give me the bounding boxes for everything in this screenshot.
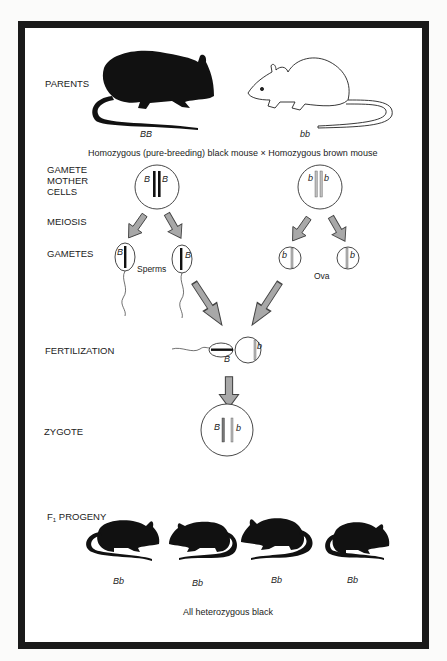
meiosis-arrow-icon xyxy=(324,213,352,245)
stage-label-parents: PARENTS xyxy=(45,78,89,89)
brown-parent-genotype: bb xyxy=(300,129,310,139)
meiosis-arrow-icon xyxy=(286,213,315,245)
black-parent-genotype: BB xyxy=(140,129,152,139)
black-mouse-icon xyxy=(325,522,389,560)
allele-label: b xyxy=(308,173,313,183)
sperm-cell: B xyxy=(172,245,192,318)
stage-label-meiosis: MEIOSIS xyxy=(47,216,87,227)
sperm-cell: B xyxy=(115,243,135,316)
meiosis-arrow-icon xyxy=(122,210,151,242)
male-mother-cell: B B xyxy=(135,165,179,209)
stage-label-gametes: GAMETES xyxy=(47,248,93,259)
ovum-cell: b xyxy=(279,247,301,269)
cross-caption: Homozygous (pure-breeding) black mouse ×… xyxy=(88,148,377,158)
allele-label: B xyxy=(185,250,191,260)
female-mother-cell: b b xyxy=(298,165,342,209)
stage-label-zygote: ZYGOTE xyxy=(44,426,83,437)
allele-label: B xyxy=(214,422,220,432)
black-mouse-icon xyxy=(169,522,237,560)
black-mouse-icon xyxy=(86,520,159,561)
stage-label-gamete-line3: CELLS xyxy=(47,186,77,197)
allele-label: b xyxy=(282,250,287,260)
sperms-label: Sperms xyxy=(137,264,166,274)
progeny-mice xyxy=(86,518,389,561)
allele-label: b xyxy=(324,173,329,183)
progeny-genotype: Bb xyxy=(347,575,358,585)
zygote-cell: B b xyxy=(201,404,253,456)
allele-label: b xyxy=(236,423,241,433)
allele-label: b xyxy=(257,341,262,351)
progeny-genotype: Bb xyxy=(113,576,124,586)
allele-label: b xyxy=(350,250,355,260)
fertilization-arrow-icon xyxy=(188,278,229,329)
stage-label-fertilization: FERTILIZATION xyxy=(45,345,114,356)
genetics-cross-diagram: PARENTS GAMETE MOTHER CELLS MEIOSIS GAME… xyxy=(0,0,447,661)
stage-label-gamete-line2: MOTHER xyxy=(47,175,88,186)
progeny-genotype: Bb xyxy=(192,578,203,588)
fertilizing-sperm: B xyxy=(172,343,233,364)
meiosis-arrow-icon xyxy=(160,210,188,242)
allele-label: B xyxy=(144,174,150,184)
progeny-genotype: Bb xyxy=(271,575,282,585)
allele-label: B xyxy=(162,174,168,184)
brown-mouse-icon xyxy=(248,58,392,128)
black-mouse-icon xyxy=(241,518,313,560)
ova-label: Ova xyxy=(314,271,330,281)
fertilized-ovum: b xyxy=(235,337,262,363)
allele-label: B xyxy=(224,354,230,364)
ovum-cell: b xyxy=(337,247,359,269)
black-mouse-icon xyxy=(92,51,214,130)
zygote-arrow-icon xyxy=(219,377,238,408)
allele-label: B xyxy=(117,247,123,257)
fertilization-arrow-icon xyxy=(245,278,286,329)
progeny-caption: All heterozygous black xyxy=(183,607,274,617)
stage-label-gamete-line1: GAMETE xyxy=(47,164,87,175)
stage-label-f1-progeny: F1 PROGENY xyxy=(47,511,107,523)
